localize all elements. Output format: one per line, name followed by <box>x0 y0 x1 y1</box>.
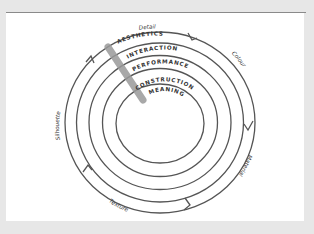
label-silhouette: Silhouette <box>54 110 61 140</box>
ring-meaning <box>116 84 204 163</box>
arrow-notch-top <box>188 33 197 40</box>
ring-performance <box>103 69 218 177</box>
label-detail: Detail <box>138 24 156 31</box>
label-texture: Texture <box>108 198 130 213</box>
label-performance: PERFORMANCE <box>131 58 190 72</box>
label-material: Material <box>237 154 253 178</box>
concentric-ring-diagram: AESTHETICS INTERACTION PERFORMANCE CONST… <box>0 0 314 234</box>
arrow-notch-right <box>244 121 253 130</box>
ring-interaction <box>89 56 231 190</box>
